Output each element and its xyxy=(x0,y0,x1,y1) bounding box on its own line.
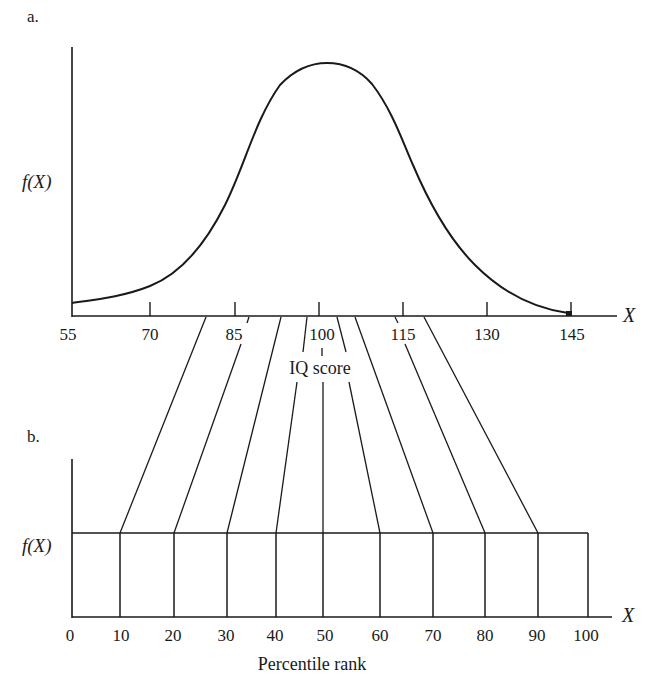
bottom-tick-label: 30 xyxy=(218,627,235,644)
bottom-tick-label: 40 xyxy=(267,627,284,644)
top-y-axis-label: f(X) xyxy=(22,172,52,191)
top-tick-label: 55 xyxy=(60,326,77,343)
bottom-y-axis-label: f(X) xyxy=(22,536,52,555)
mapping-lines xyxy=(120,317,538,533)
top-tick-label: 115 xyxy=(391,326,416,343)
top-tick-label: 100 xyxy=(309,326,335,343)
top-tick-label: 85 xyxy=(226,326,243,343)
top-x-ticks xyxy=(150,302,571,316)
top-tick-label: 70 xyxy=(142,326,159,343)
iq-percentile-figure: a. b. f(X) f(X) X X 55 70 85 100 115 130… xyxy=(0,0,650,697)
top-tick-label: 130 xyxy=(474,326,500,343)
bottom-tick-label: 20 xyxy=(165,627,182,644)
bottom-tick-label: 10 xyxy=(113,627,130,644)
bottom-tick-label: 80 xyxy=(477,627,494,644)
top-x-axis-title: IQ score xyxy=(289,359,350,377)
bottom-tick-label: 50 xyxy=(317,627,334,644)
top-x-var-label: X xyxy=(623,305,635,325)
top-tick-label: 145 xyxy=(559,326,585,343)
percentile-dividers xyxy=(120,533,588,617)
bottom-x-axis-title: Percentile rank xyxy=(258,655,366,673)
bottom-tick-label: 100 xyxy=(573,627,599,644)
bottom-tick-label: 70 xyxy=(425,627,442,644)
normal-curve xyxy=(72,63,568,313)
bottom-tick-label: 0 xyxy=(66,627,75,644)
bottom-x-var-label: X xyxy=(622,605,634,625)
plot-canvas xyxy=(0,0,650,697)
bottom-tick-label: 90 xyxy=(529,627,546,644)
panel-a-label: a. xyxy=(27,8,39,25)
bottom-tick-label: 60 xyxy=(372,627,389,644)
panel-b-label: b. xyxy=(27,428,40,445)
